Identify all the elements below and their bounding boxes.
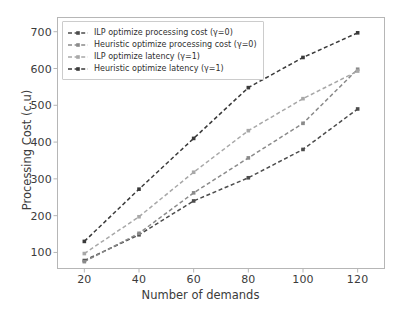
x-tick-label: 40 xyxy=(132,273,146,286)
y-tick-label: 100 xyxy=(30,246,52,259)
y-tick-label: 700 xyxy=(30,25,52,38)
data-point-marker xyxy=(247,156,251,160)
data-point-marker xyxy=(247,86,251,90)
y-axis-label: Processing Cost (c.u) xyxy=(20,65,34,235)
data-point-marker xyxy=(83,252,87,256)
data-point-marker xyxy=(356,107,360,111)
series-line xyxy=(84,69,357,261)
data-point-marker xyxy=(356,31,360,35)
legend-swatch-icon xyxy=(67,28,89,38)
legend-label: ILP optimize latency (γ=1) xyxy=(94,52,200,62)
chart-figure: 100200300400500600700 20406080100120 Num… xyxy=(0,0,401,309)
legend-swatch-icon xyxy=(67,40,89,50)
data-point-marker xyxy=(301,148,305,152)
data-point-marker xyxy=(137,215,141,219)
legend-item[interactable]: ILP optimize processing cost (γ=0) xyxy=(67,27,257,38)
x-tick-label: 100 xyxy=(292,273,314,286)
data-point-marker xyxy=(192,170,196,174)
data-point-marker xyxy=(192,191,196,195)
series-line xyxy=(84,71,357,253)
data-point-marker xyxy=(356,69,360,73)
data-point-marker xyxy=(247,129,251,133)
legend-swatch-icon xyxy=(67,52,89,62)
legend-item[interactable]: ILP optimize latency (γ=1) xyxy=(67,51,257,62)
data-point-marker xyxy=(137,232,141,236)
data-point-marker xyxy=(192,137,196,141)
data-point-marker xyxy=(301,97,305,101)
x-tick-label: 60 xyxy=(186,273,200,286)
legend-item[interactable]: Heuristic optimize processing cost (γ=0) xyxy=(67,39,257,50)
data-point-marker xyxy=(301,56,305,60)
x-axis-ticks: 20406080100120 xyxy=(0,273,401,289)
data-point-marker xyxy=(83,260,87,264)
legend-label: Heuristic optimize processing cost (γ=0) xyxy=(94,40,257,50)
series-line xyxy=(84,109,357,261)
data-point-marker xyxy=(247,176,251,180)
data-point-marker xyxy=(137,187,141,191)
x-tick-label: 120 xyxy=(347,273,369,286)
chart-legend: ILP optimize processing cost (γ=0)Heuris… xyxy=(62,21,264,80)
legend-label: Heuristic optimize latency (γ=1) xyxy=(94,64,224,74)
legend-item[interactable]: Heuristic optimize latency (γ=1) xyxy=(67,63,257,74)
x-axis-label: Number of demands xyxy=(0,288,401,302)
legend-swatch-icon xyxy=(67,64,89,74)
x-tick-label: 20 xyxy=(77,273,91,286)
data-point-marker xyxy=(192,199,196,203)
x-tick-label: 80 xyxy=(241,273,255,286)
legend-label: ILP optimize processing cost (γ=0) xyxy=(94,28,233,38)
data-point-marker xyxy=(301,122,305,126)
data-point-marker xyxy=(83,240,87,244)
